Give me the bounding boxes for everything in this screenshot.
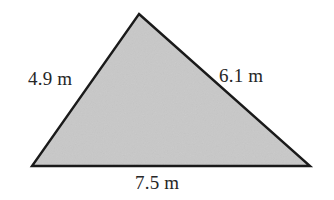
side-length-label-bottom: 7.5 m bbox=[135, 173, 179, 192]
triangle-figure: 4.9 m 6.1 m 7.5 m bbox=[0, 0, 334, 200]
triangle-shape bbox=[0, 0, 334, 200]
side-length-label-right: 6.1 m bbox=[219, 66, 263, 85]
triangle-fill bbox=[32, 14, 310, 166]
side-length-label-left: 4.9 m bbox=[28, 69, 72, 88]
